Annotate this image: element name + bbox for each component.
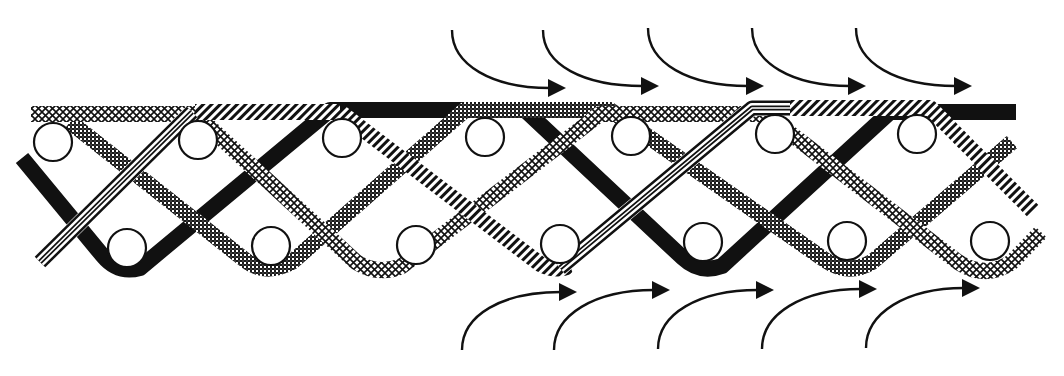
flow-arrow-icon-bottom-1 bbox=[462, 283, 577, 350]
strands-layer bbox=[22, 108, 1041, 271]
diagram-canvas bbox=[0, 0, 1064, 376]
flow-arrow-icon-top-4 bbox=[752, 28, 866, 95]
rod-bottom-row-6 bbox=[828, 222, 866, 260]
flow-arrow-icon-bottom-3 bbox=[658, 281, 774, 349]
rod-top-row-6 bbox=[756, 115, 794, 153]
flow-arrow-icon-top-3 bbox=[648, 28, 764, 95]
rod-bottom-row-7 bbox=[971, 222, 1009, 260]
flow-arrow-icon-bottom-4 bbox=[762, 280, 877, 349]
flow-arrow-icon-bottom-5 bbox=[866, 279, 980, 348]
rod-top-row-7 bbox=[898, 115, 936, 153]
flow-arrow-icon-top-1 bbox=[452, 30, 566, 97]
rod-top-row-5 bbox=[612, 117, 650, 155]
rod-bottom-row-3 bbox=[397, 226, 435, 264]
rod-bottom-row-5 bbox=[684, 223, 722, 261]
rod-top-row-1 bbox=[34, 123, 72, 161]
rod-bottom-row-2 bbox=[252, 227, 290, 265]
braid-diagram: Braided strands weaving over and under t… bbox=[0, 0, 1064, 376]
flow-arrow-icon-top-5 bbox=[856, 28, 972, 95]
rod-top-row-2 bbox=[179, 121, 217, 159]
rod-bottom-row-4 bbox=[541, 225, 579, 263]
rod-top-row-4 bbox=[466, 118, 504, 156]
rod-bottom-row-1 bbox=[108, 229, 146, 267]
rod-top-row-3 bbox=[323, 119, 361, 157]
